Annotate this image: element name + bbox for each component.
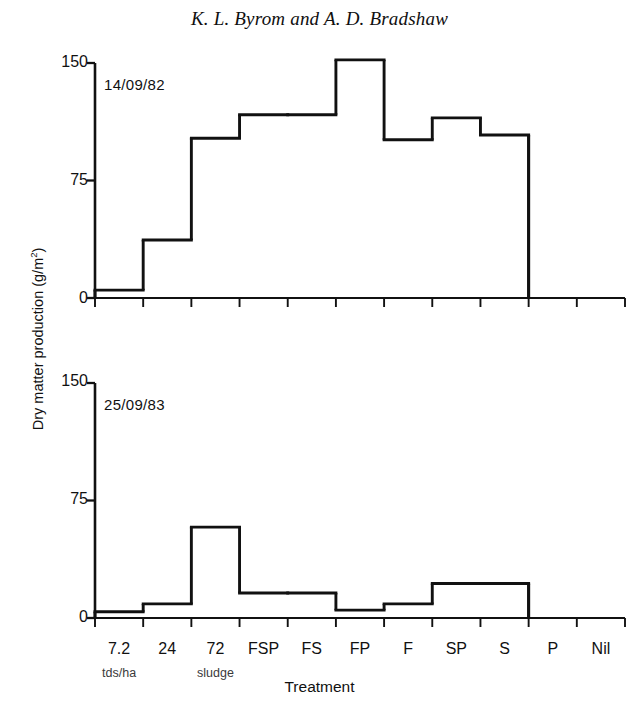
bottom-panel-date-label: 25/09/83 xyxy=(104,396,165,413)
top-panel-plot xyxy=(0,0,639,702)
bottom-ytick-0: 0 xyxy=(42,609,88,625)
x-axis-category-label: F xyxy=(403,640,413,658)
figure-root: K. L. Byrom and A. D. Bradshaw Dry matte… xyxy=(0,0,639,702)
x-axis-title: Treatment xyxy=(0,678,639,696)
top-panel-date-label: 14/09/82 xyxy=(104,76,165,93)
bottom-ytick-150: 150 xyxy=(42,373,88,389)
x-axis-category-label: Nil xyxy=(592,640,611,658)
x-axis-category-label: 7.2 xyxy=(108,640,130,658)
x-axis-category-label: 72 xyxy=(207,640,225,658)
y-axis-label: Dry matter production (g/m2) xyxy=(28,214,46,464)
y-axis-label-tail: ) xyxy=(30,248,46,253)
top-ytick-75: 75 xyxy=(42,172,88,188)
x-axis-category-label: S xyxy=(499,640,510,658)
x-axis-category-labels: 7.22472FSPFSFPFSPSPNil xyxy=(0,640,639,666)
bottom-panel-plot xyxy=(0,0,639,702)
x-axis-category-label: 24 xyxy=(158,640,176,658)
x-axis-category-label: P xyxy=(547,640,558,658)
y-axis-label-exponent: 2 xyxy=(28,252,39,257)
x-axis-category-label: SP xyxy=(446,640,467,658)
top-ytick-0: 0 xyxy=(42,290,88,306)
x-axis-category-label: FS xyxy=(302,640,322,658)
bottom-ytick-75: 75 xyxy=(42,491,88,507)
y-axis-label-text: Dry matter production (g/m xyxy=(30,258,46,430)
x-axis-category-label: FSP xyxy=(248,640,279,658)
figure-title: K. L. Byrom and A. D. Bradshaw xyxy=(0,8,639,30)
x-axis-category-label: FP xyxy=(350,640,370,658)
top-ytick-150: 150 xyxy=(42,54,88,70)
